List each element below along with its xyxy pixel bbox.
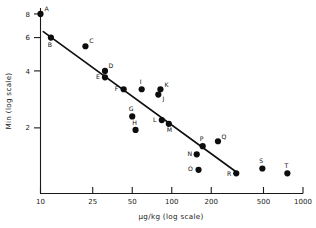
- data-point-label: Q: [222, 133, 227, 140]
- data-point-label: I: [140, 78, 142, 85]
- data-point-label: L: [153, 116, 157, 123]
- data-point-label: E: [96, 73, 100, 80]
- data-point: [102, 74, 108, 80]
- data-point: [215, 138, 221, 144]
- data-point: [121, 86, 127, 92]
- data-point-label: T: [283, 162, 288, 169]
- x-tick-label: 10: [36, 198, 45, 206]
- data-point: [159, 117, 165, 123]
- y-tick-label: 6: [26, 34, 31, 42]
- data-point: [195, 167, 201, 173]
- data-point: [37, 11, 43, 17]
- data-point-label: O: [188, 165, 193, 172]
- plot-canvas: 8642 1025501002005001000 ABCDEFGHIJKLMNO…: [0, 0, 316, 228]
- data-point-label: J: [161, 95, 164, 103]
- data-point-label: M: [167, 126, 172, 133]
- y-tick-label: 8: [26, 11, 30, 19]
- data-point-label: C: [89, 37, 93, 44]
- x-tick-label: 200: [205, 198, 218, 206]
- x-tick-label: 50: [128, 198, 137, 206]
- data-point: [102, 68, 108, 74]
- data-point: [132, 127, 138, 133]
- data-point: [194, 151, 200, 157]
- x-tick-label: 500: [257, 198, 270, 206]
- y-tick-label: 4: [26, 68, 31, 76]
- data-point-label: F: [115, 85, 119, 92]
- data-point-label: N: [187, 150, 192, 157]
- data-point-label: B: [48, 41, 52, 48]
- data-point: [233, 170, 239, 176]
- x-axis-label: µg/kg (log scale): [138, 212, 203, 221]
- x-tick-label: 100: [165, 198, 178, 206]
- data-point-label: P: [200, 135, 204, 142]
- data-point-label: H: [132, 119, 137, 126]
- data-point-label: D: [109, 62, 114, 69]
- data-point: [155, 91, 161, 97]
- data-point: [259, 165, 265, 171]
- x-tick-label: 25: [88, 198, 97, 206]
- scatter-plot-figure: 8642 1025501002005001000 ABCDEFGHIJKLMNO…: [0, 0, 316, 228]
- data-point: [139, 86, 145, 92]
- data-point-label: R: [227, 170, 232, 177]
- data-point: [284, 170, 290, 176]
- data-point: [200, 143, 206, 149]
- x-tick-label: 1000: [294, 198, 312, 206]
- y-axis-label: Min (log scale): [4, 73, 13, 130]
- data-point: [82, 43, 88, 49]
- data-point-label: G: [129, 105, 134, 112]
- data-point: [157, 86, 163, 92]
- data-point-label: S: [259, 157, 263, 164]
- y-tick-label: 2: [26, 124, 30, 132]
